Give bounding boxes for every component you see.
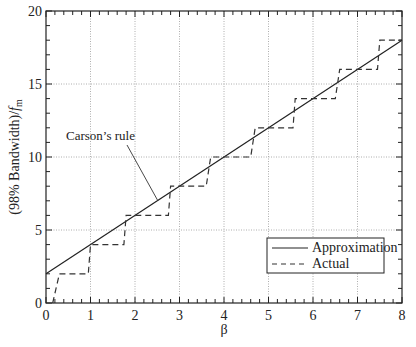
x-tick-labels: 012345678 (43, 308, 406, 323)
y-tick-labels: 05101520 (28, 4, 42, 311)
y-tick-label: 10 (28, 150, 42, 165)
x-tick-label: 8 (399, 308, 406, 323)
x-tick-label: 7 (354, 308, 361, 323)
legend: Approximation Actual (267, 238, 398, 273)
x-tick-label: 2 (132, 308, 139, 323)
x-tick-label: 0 (43, 308, 50, 323)
x-tick-label: 5 (265, 308, 272, 323)
x-tick-label: 1 (87, 308, 94, 323)
y-axis-label: (98% Bandwidth)/fm (7, 99, 24, 215)
y-tick-label: 15 (28, 77, 42, 92)
x-tick-label: 6 (310, 308, 317, 323)
x-axis-label: β (220, 322, 227, 337)
carson-rule-annotation: Carson’s rule (66, 128, 135, 143)
y-tick-label: 5 (35, 223, 42, 238)
y-tick-label: 20 (28, 4, 42, 19)
legend-approximation-label: Approximation (312, 240, 398, 255)
carson-rule-leader (127, 145, 158, 201)
x-tick-label: 4 (221, 308, 228, 323)
legend-actual-label: Actual (312, 256, 349, 271)
y-tick-label: 0 (35, 296, 42, 311)
x-tick-label: 3 (176, 308, 183, 323)
chart: 012345678 05101520 β (98% Bandwidth)/fm … (0, 0, 416, 347)
